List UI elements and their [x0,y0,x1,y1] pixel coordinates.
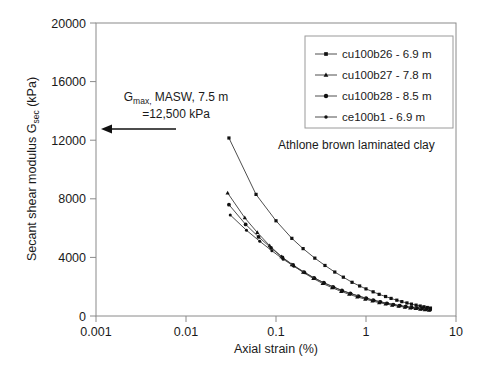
data-point-dot [392,303,395,306]
data-point-circle [324,94,328,98]
x-ticklabel-0.1: 0.1 [267,325,284,339]
data-point-dot [270,249,273,252]
y-ticklabel-16000: 16000 [51,75,86,89]
series-2 [227,203,432,312]
data-point-dot [405,305,408,308]
y-ticklabel-20000: 20000 [51,17,86,31]
data-point-circle [227,203,231,207]
data-point-square [372,290,375,293]
svg-text:Gmax, MASW, 7.5 m: Gmax, MASW, 7.5 m [124,90,228,106]
legend-label-3: ce100b1 - 6.9 m [342,111,425,123]
y-axis-title-sub: sec [31,110,41,124]
data-point-square [301,247,304,250]
data-point-square [274,219,277,222]
chart-figure: 20000 16000 12000 8000 4000 0 0.001 0.01… [0,0,492,375]
y-axis-title-unit: (kPa) [25,77,39,110]
data-point-dot [365,297,368,300]
data-point-dot [324,115,327,118]
series-0 [227,136,432,309]
chart-svg: 20000 16000 12000 8000 4000 0 0.001 0.01… [0,0,492,375]
data-point-square [384,295,387,298]
data-point-square [290,237,293,240]
data-point-dot [425,308,428,311]
legend-label-1: cu100b27 - 7.8 m [342,69,432,81]
data-point-square [389,297,392,300]
data-point-dot [416,307,419,310]
data-point-dot [349,292,352,295]
data-point-square [227,136,230,139]
x-ticklabel-10: 10 [449,325,463,339]
gmax-line1-rest: MASW, 7.5 m [152,90,229,104]
data-point-square [324,52,328,56]
y-axis-title: Secant shear modulus Gsec (kPa) [25,77,41,261]
series-line-0 [229,138,431,308]
data-point-dot [323,282,326,285]
x-axis-ticks [96,316,456,322]
gmax-line1-main: G [124,90,133,104]
data-point-square [254,193,257,196]
svg-text:Secant shear modulus Gsec (kPa: Secant shear modulus Gsec (kPa) [25,77,41,261]
data-point-square [405,301,408,304]
y-ticklabel-12000: 12000 [51,134,86,148]
y-ticklabel-8000: 8000 [58,192,86,206]
data-point-dot [373,299,376,302]
data-point-square [410,303,413,306]
legend: cu100b26 - 6.9 mcu100b27 - 7.8 mcu100b28… [305,36,453,128]
data-point-square [323,264,326,267]
data-point-square [395,299,398,302]
data-point-square [350,281,353,284]
gmax-line1-sub: max, [133,96,151,106]
legend-label-0: cu100b26 - 6.9 m [342,48,432,60]
data-series-layer [226,136,433,311]
left-arrow-icon [101,125,176,134]
series-line-3 [230,215,430,310]
series-1 [226,191,431,312]
data-point-dot [411,306,414,309]
data-point-dot [229,213,232,216]
data-point-dot [399,304,402,307]
gmax-annotation: Gmax, MASW, 7.5 m =12,500 kPa [101,90,228,134]
data-point-dot [282,258,285,261]
data-point-dot [332,286,335,289]
data-point-square [313,257,316,260]
series-3 [229,213,432,311]
series-line-1 [228,193,429,310]
data-point-dot [358,295,361,298]
data-point-dot [429,308,432,311]
data-point-square [364,287,367,290]
data-point-dot [292,265,295,268]
data-point-square [400,300,403,303]
x-ticklabel-0.001: 0.001 [80,325,111,339]
x-axis-title: Axial strain (%) [234,342,318,356]
data-point-circle [257,235,261,239]
y-axis-ticks [90,23,96,316]
data-point-dot [303,271,306,274]
legend-label-2: cu100b28 - 8.5 m [342,90,432,102]
data-point-dot [386,302,389,305]
data-point-dot [258,240,261,243]
series-line-2 [229,205,430,310]
data-point-circle [244,223,248,227]
data-point-square [342,276,345,279]
x-ticklabel-0.01: 0.01 [174,325,198,339]
data-point-triangle [226,191,230,195]
x-ticklabel-1: 1 [363,325,370,339]
data-point-dot [379,300,382,303]
data-point-dot [421,307,424,310]
data-point-dot [341,289,344,292]
data-point-square [358,284,361,287]
y-ticklabel-0: 0 [79,310,86,324]
data-point-square [378,293,381,296]
data-point-square [333,270,336,273]
y-axis-title-main: Secant shear modulus G [25,124,39,262]
y-ticklabel-4000: 4000 [58,251,86,265]
material-label: Athlone brown laminated clay [278,138,435,152]
data-point-dot [313,277,316,280]
data-point-dot [245,229,248,232]
gmax-line2: =12,500 kPa [142,107,210,121]
